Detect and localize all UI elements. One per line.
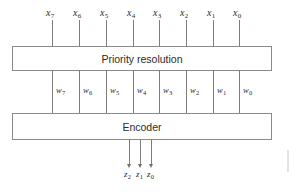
input-label-x6-base: x [73,7,77,18]
intermediate-label-w2-base: w [190,85,196,95]
output-label-z2-index: 2 [128,173,131,180]
intermediate-label-w5-index: 5 [116,89,119,96]
intermediate-label-w6-index: 6 [89,89,92,96]
input-wire-x5 [106,20,107,47]
intermediate-wire-w2 [186,70,187,114]
input-label-x1: x1 [207,8,215,18]
input-wire-x0 [239,20,240,47]
intermediate-label-w3-index: 3 [169,89,172,96]
intermediate-label-w2: w2 [190,86,199,95]
intermediate-wire-w5 [106,70,107,114]
intermediate-label-w0-index: 0 [249,89,252,96]
encoder-label: Encoder [122,121,161,133]
output-wire-z1 [140,139,141,166]
intermediate-label-w7: w7 [56,86,65,95]
input-wire-x4 [133,20,134,47]
input-wire-x2 [186,20,187,47]
priority-resolution-label: Priority resolution [101,53,182,65]
intermediate-label-w5: w5 [110,86,119,95]
input-label-x7-base: x [46,7,50,18]
output-arrowhead-z0 [149,164,153,168]
encoder-block[interactable]: Encoder [12,113,272,140]
intermediate-wire-w3 [159,70,160,114]
priority-encoder-diagram: x7 x6 x5 x4 x3 x2 x1 x0 Priority resolut… [0,0,289,194]
input-label-x3-base: x [153,7,157,18]
intermediate-label-w6-base: w [83,85,89,95]
input-label-x0-base: x [233,7,237,18]
intermediate-wire-w0 [239,70,240,114]
input-label-x5-base: x [100,7,104,18]
intermediate-label-w4-index: 4 [143,89,146,96]
output-label-z0: z0 [147,170,154,179]
intermediate-label-w4-base: w [137,85,143,95]
input-label-x3: x3 [153,8,161,18]
input-label-x7-index: 7 [51,12,55,20]
intermediate-wire-w1 [213,70,214,114]
intermediate-label-w7-base: w [56,85,62,95]
intermediate-wire-w4 [133,70,134,114]
intermediate-label-w0-base: w [243,85,249,95]
input-label-x2-base: x [180,7,184,18]
input-wire-x6 [79,20,80,47]
intermediate-label-w7-index: 7 [62,89,65,96]
output-label-z1: z1 [136,170,143,179]
input-label-x5: x5 [100,8,108,18]
input-label-x5-index: 5 [105,12,109,20]
intermediate-label-w5-base: w [110,85,116,95]
output-arrowhead-z1 [138,164,142,168]
output-label-z1-base: z [136,169,140,179]
output-label-z2: z2 [124,170,131,179]
input-label-x6-index: 6 [78,12,82,20]
intermediate-wire-w7 [52,70,53,114]
page-edge-artifact [287,150,289,172]
input-label-x0-index: 0 [238,12,242,20]
intermediate-label-w3: w3 [163,86,172,95]
output-arrowhead-z2 [127,164,131,168]
intermediate-label-w1: w1 [217,86,226,95]
input-label-x6: x6 [73,8,81,18]
intermediate-label-w1-index: 1 [223,89,226,96]
input-label-x1-base: x [207,7,211,18]
output-label-z0-base: z [147,169,151,179]
input-label-x7: x7 [46,8,54,18]
input-wire-x1 [213,20,214,47]
input-wire-x7 [52,20,53,47]
output-wire-z2 [129,139,130,166]
priority-resolution-block[interactable]: Priority resolution [12,46,272,71]
output-wire-z0 [151,139,152,166]
input-label-x4-base: x [127,7,131,18]
intermediate-wire-w6 [79,70,80,114]
input-label-x3-index: 3 [158,12,162,20]
intermediate-label-w4: w4 [137,86,146,95]
input-label-x4: x4 [127,8,135,18]
intermediate-label-w2-index: 2 [196,89,199,96]
intermediate-label-w1-base: w [217,85,223,95]
intermediate-label-w0: w0 [243,86,252,95]
input-label-x4-index: 4 [132,12,136,20]
output-label-z0-index: 0 [151,173,154,180]
intermediate-label-w6: w6 [83,86,92,95]
output-label-z1-index: 1 [140,173,143,180]
input-label-x2-index: 2 [185,12,189,20]
input-label-x2: x2 [180,8,188,18]
input-label-x0: x0 [233,8,241,18]
input-wire-x3 [159,20,160,47]
intermediate-label-w3-base: w [163,85,169,95]
output-label-z2-base: z [124,169,128,179]
input-label-x1-index: 1 [212,12,216,20]
